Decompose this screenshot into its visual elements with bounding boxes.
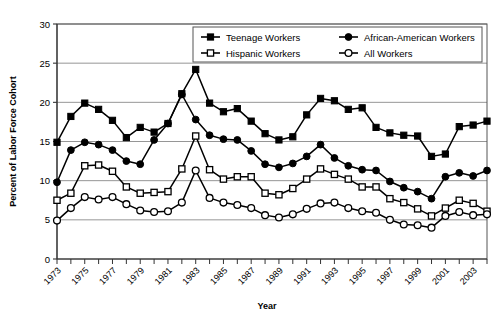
data-point — [220, 199, 227, 206]
data-point — [81, 139, 88, 146]
data-point — [414, 188, 421, 195]
data-point — [289, 160, 296, 167]
data-point — [359, 105, 365, 111]
data-point — [54, 217, 61, 224]
data-point — [234, 106, 240, 112]
data-point — [331, 98, 337, 104]
data-point — [415, 133, 421, 139]
y-tick-label: 10 — [39, 175, 50, 186]
data-point — [123, 184, 129, 190]
x-tick-label: 1973 — [42, 265, 63, 286]
data-point — [165, 208, 172, 215]
x-axis-title: Year — [257, 301, 277, 311]
x-tick-label: 1987 — [236, 265, 257, 286]
data-point — [373, 209, 380, 216]
data-point — [137, 124, 143, 130]
data-point — [109, 168, 115, 174]
data-point — [415, 206, 421, 212]
data-point — [359, 166, 366, 173]
data-point — [82, 100, 88, 106]
y-tick-label: 15 — [39, 136, 50, 147]
data-point — [387, 178, 394, 185]
legend-label: Hispanic Workers — [226, 48, 301, 59]
data-point — [262, 161, 269, 168]
data-point — [400, 221, 407, 228]
data-point — [276, 164, 283, 171]
y-tick-label: 25 — [39, 58, 50, 69]
data-point — [303, 205, 310, 212]
data-point — [470, 122, 476, 128]
data-point — [151, 209, 158, 216]
legend-marker — [207, 50, 213, 56]
data-point — [400, 184, 407, 191]
data-point — [165, 189, 171, 195]
data-point — [276, 137, 282, 143]
data-point — [68, 113, 74, 119]
data-point — [123, 134, 129, 140]
data-point — [248, 148, 255, 155]
data-point — [81, 194, 88, 201]
line-chart: 0510152025301973197519771979198119831985… — [0, 0, 502, 321]
data-point — [442, 213, 449, 220]
legend-marker — [345, 34, 352, 41]
y-tick-label: 30 — [39, 19, 50, 30]
x-tick-label: 1977 — [97, 265, 118, 286]
data-point — [165, 120, 172, 127]
data-point — [67, 205, 74, 212]
data-point — [206, 167, 212, 173]
data-point — [428, 195, 435, 202]
data-point — [401, 200, 407, 206]
data-point — [220, 136, 227, 143]
data-point — [387, 130, 393, 136]
data-point — [484, 167, 491, 174]
data-point — [96, 106, 102, 112]
legend-marker — [207, 34, 213, 40]
data-point — [317, 200, 324, 207]
data-point — [262, 190, 268, 196]
data-point — [54, 197, 60, 203]
legend-label: All Workers — [364, 48, 413, 59]
data-point — [234, 137, 241, 144]
x-tick-label: 1983 — [180, 265, 201, 286]
x-tick-label: 1997 — [375, 265, 396, 286]
data-point — [206, 100, 212, 106]
data-point — [290, 134, 296, 140]
x-tick-label: 1989 — [264, 265, 285, 286]
data-point — [290, 185, 296, 191]
data-point — [178, 199, 185, 206]
legend-label: Teenage Workers — [226, 32, 301, 43]
data-point — [304, 112, 310, 118]
x-tick-label: 2003 — [458, 265, 479, 286]
data-point — [192, 167, 199, 174]
x-tick-label: 1985 — [208, 265, 229, 286]
data-point — [470, 173, 477, 180]
data-point — [109, 147, 116, 154]
data-point — [151, 129, 157, 135]
data-point — [331, 155, 338, 162]
data-point — [359, 208, 366, 215]
x-tick-label: 1995 — [347, 265, 368, 286]
x-tick-label: 1975 — [69, 265, 90, 286]
data-point — [54, 139, 60, 145]
data-point — [234, 174, 240, 180]
data-point — [304, 176, 310, 182]
data-point — [414, 222, 421, 229]
data-point — [387, 216, 394, 223]
data-point — [428, 153, 434, 159]
data-point — [317, 141, 324, 148]
data-point — [317, 166, 323, 172]
y-tick-label: 5 — [45, 214, 50, 225]
data-point — [193, 66, 199, 72]
data-point — [456, 169, 463, 176]
data-point — [303, 153, 310, 160]
data-point — [442, 173, 449, 180]
data-point — [193, 133, 199, 139]
data-point — [262, 131, 268, 137]
x-tick-label: 1991 — [291, 265, 312, 286]
x-tick-label: 1999 — [402, 265, 423, 286]
data-point — [248, 118, 254, 124]
data-point — [137, 190, 143, 196]
data-point — [68, 190, 74, 196]
data-point — [137, 207, 144, 214]
data-point — [428, 224, 435, 231]
